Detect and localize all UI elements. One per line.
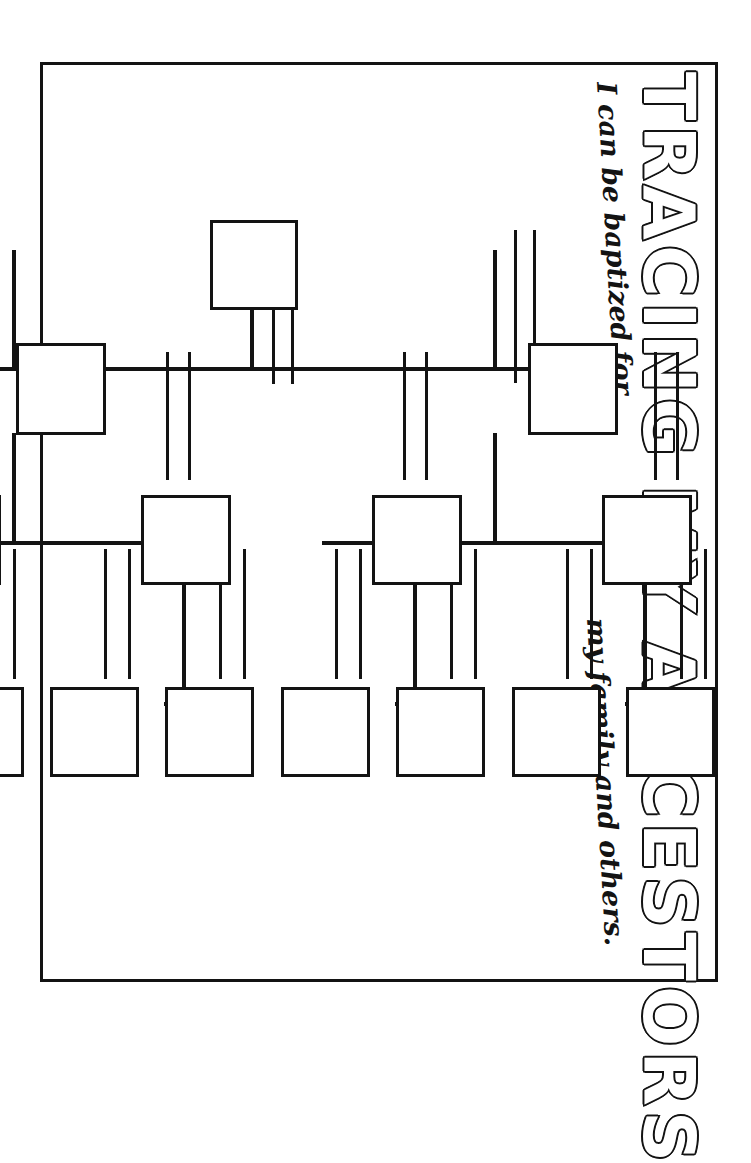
writing-line <box>403 352 406 480</box>
pedigree-box-grandparent[interactable] <box>602 495 692 585</box>
title-letter: G <box>627 398 710 461</box>
writing-line <box>654 352 657 480</box>
writing-line <box>566 549 569 679</box>
writing-line <box>166 352 169 480</box>
connector <box>493 433 497 545</box>
title-letter: O <box>627 986 710 1051</box>
pedigree-box-parent[interactable] <box>16 343 106 435</box>
writing-line <box>514 230 517 383</box>
writing-line <box>676 352 679 480</box>
subtitle-line-2: my family and others. <box>581 617 630 947</box>
writing-line <box>188 352 191 480</box>
pedigree-box-great-grandparent[interactable] <box>281 687 370 777</box>
title-letter: E <box>627 823 710 877</box>
title-space <box>627 617 710 641</box>
writing-line <box>474 549 477 679</box>
title-letter: S <box>627 1111 710 1163</box>
pedigree-box-great-grandparent[interactable] <box>396 687 485 777</box>
pedigree-box-great-grandparent[interactable] <box>50 687 139 777</box>
title-letter: N <box>627 334 710 398</box>
pedigree-box-grandparent[interactable] <box>141 495 231 585</box>
pedigree-box-great-grandparent[interactable] <box>512 687 601 777</box>
connector <box>322 541 340 545</box>
pedigree-box-self[interactable] <box>210 220 298 310</box>
pedigree-box-grandparent[interactable] <box>0 495 1 585</box>
writing-line <box>359 549 362 679</box>
title-letter: R <box>627 125 710 185</box>
writing-line <box>128 549 131 679</box>
worksheet-content-rotated: TRACING MY ANCESTORS I can be baptized f… <box>40 62 718 982</box>
pedigree-box-great-grandparent[interactable] <box>0 687 24 777</box>
title-letter: T <box>627 933 710 986</box>
writing-line <box>335 549 338 679</box>
title-space <box>627 461 710 485</box>
pedigree-box-parent[interactable] <box>528 343 618 435</box>
title-letter: C <box>627 245 710 302</box>
connector <box>12 433 16 545</box>
connector <box>250 367 497 371</box>
connector <box>493 250 497 370</box>
pedigree-box-great-grandparent[interactable] <box>165 687 254 777</box>
title-letter: S <box>627 876 710 932</box>
title-letter: I <box>627 302 710 333</box>
pedigree-box-great-grandparent[interactable] <box>626 687 715 777</box>
writing-line <box>243 549 246 679</box>
writing-line <box>704 549 707 679</box>
connector <box>250 307 254 371</box>
pedigree-box-grandparent[interactable] <box>372 495 462 585</box>
title-letter: T <box>627 72 710 125</box>
writing-line <box>425 352 428 480</box>
writing-line <box>104 549 107 679</box>
connector <box>494 367 530 371</box>
writing-line <box>13 549 16 679</box>
title-letter: R <box>627 1051 710 1111</box>
writing-line <box>590 549 593 679</box>
title-letter: A <box>627 185 710 245</box>
